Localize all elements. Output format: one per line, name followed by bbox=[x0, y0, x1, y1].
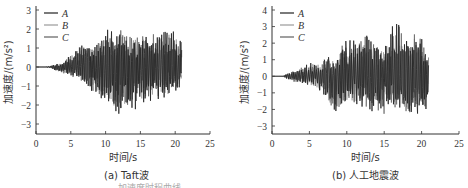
x-tick-label: 5 bbox=[307, 139, 312, 149]
y-axis-title: 加速度/(m/s²) bbox=[238, 40, 250, 104]
legend-label-b: B bbox=[298, 20, 304, 31]
y-tick-label: −2 bbox=[257, 105, 267, 115]
x-tick-label: 15 bbox=[379, 139, 389, 149]
chart-caption-taft: (a) Taft波 bbox=[104, 167, 149, 182]
legend-label-c: C bbox=[298, 32, 305, 43]
y-tick-label: −3 bbox=[257, 122, 267, 132]
y-tick-label: 3 bbox=[262, 22, 267, 32]
legend-label-a: A bbox=[61, 8, 69, 19]
x-axis-title: 时间/s bbox=[351, 151, 380, 163]
series-line-a bbox=[272, 24, 429, 113]
x-tick-label: 25 bbox=[205, 139, 215, 149]
x-tick-label: 10 bbox=[101, 139, 111, 149]
figure-caption-fragment: ……加速度时程曲线…… bbox=[100, 181, 370, 188]
chart-panel-artificial: −3−2−1012340510152025时间/s加速度/(m/s²)ABC (… bbox=[234, 0, 468, 188]
x-tick-label: 0 bbox=[270, 139, 275, 149]
x-tick-label: 15 bbox=[136, 139, 146, 149]
legend-label-b: B bbox=[62, 20, 68, 31]
chart-caption-artificial: (b) 人工地震波 bbox=[332, 167, 399, 182]
legend-label-a: A bbox=[297, 8, 305, 19]
y-tick-label: 4 bbox=[262, 6, 267, 16]
y-tick-label: −3 bbox=[21, 120, 31, 130]
chart-plot-area-artificial: −3−2−1012340510152025时间/s加速度/(m/s²)ABC bbox=[234, 0, 468, 188]
y-tick-label: −1 bbox=[257, 88, 267, 98]
y-tick-label: 1 bbox=[26, 44, 31, 54]
x-tick-label: 0 bbox=[34, 139, 39, 149]
y-tick-label: 0 bbox=[262, 72, 267, 82]
y-tick-label: 0 bbox=[26, 63, 31, 73]
chart-panel-taft: −3−2−101230510152025时间/s加速度/(m/s²)ABC (a… bbox=[0, 0, 234, 188]
y-tick-label: 2 bbox=[262, 39, 267, 49]
x-tick-label: 20 bbox=[417, 139, 427, 149]
y-tick-label: −1 bbox=[21, 82, 31, 92]
chart-plot-area-taft: −3−2−101230510152025时间/s加速度/(m/s²)ABC bbox=[0, 0, 234, 188]
y-axis-title: 加速度/(m/s²) bbox=[2, 40, 14, 104]
x-tick-label: 5 bbox=[68, 139, 73, 149]
x-tick-label: 25 bbox=[454, 139, 464, 149]
x-axis-title: 时间/s bbox=[109, 151, 138, 163]
y-tick-label: 3 bbox=[26, 6, 31, 16]
y-tick-label: −2 bbox=[21, 101, 31, 111]
x-tick-label: 10 bbox=[342, 139, 352, 149]
legend-label-c: C bbox=[62, 32, 69, 43]
x-tick-label: 20 bbox=[170, 139, 180, 149]
y-tick-label: 2 bbox=[26, 25, 31, 35]
y-tick-label: 1 bbox=[262, 55, 267, 65]
